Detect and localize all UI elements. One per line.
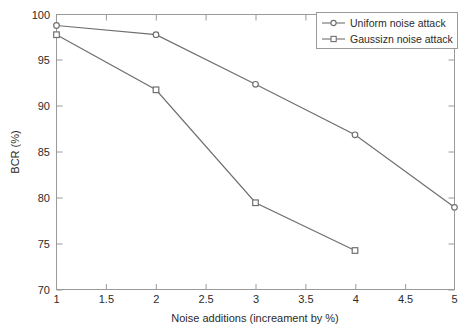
legend: Uniform noise attack Gaussizn noise atta… bbox=[317, 13, 458, 49]
data-point-square bbox=[153, 87, 159, 93]
legend-label-gaussian: Gaussizn noise attack bbox=[350, 33, 453, 45]
legend-label-uniform: Uniform noise attack bbox=[350, 17, 446, 29]
y-tick-label-100: 100 bbox=[32, 9, 50, 21]
data-point-square bbox=[54, 32, 60, 38]
x-tick-label-4: 4 bbox=[353, 293, 359, 305]
y-tick-label-70: 70 bbox=[38, 284, 50, 296]
circle-marker-icon bbox=[331, 20, 336, 25]
data-point-circle bbox=[54, 23, 60, 29]
x-tick-label-1-5: 1.5 bbox=[99, 293, 114, 305]
y-axis-title: BCR (%) bbox=[9, 130, 21, 173]
y-tick-label-85: 85 bbox=[38, 146, 50, 158]
square-marker-icon bbox=[331, 36, 336, 41]
data-point-circle bbox=[153, 32, 159, 38]
y-tick-label-75: 75 bbox=[38, 238, 50, 250]
data-point-square bbox=[352, 248, 358, 254]
x-tick-label-3-5: 3.5 bbox=[298, 293, 313, 305]
x-tick-label-2: 2 bbox=[153, 293, 159, 305]
x-axis-title: Noise additions (increament by %) bbox=[171, 312, 339, 324]
line-chart-svg: 70 75 80 85 90 95 100 bbox=[0, 0, 476, 336]
y-tick-label-95: 95 bbox=[38, 54, 50, 66]
x-tick-label-1: 1 bbox=[53, 293, 59, 305]
data-point-circle bbox=[352, 132, 358, 138]
chart-figure: 70 75 80 85 90 95 100 bbox=[0, 0, 476, 336]
x-tick-label-3: 3 bbox=[253, 293, 259, 305]
x-tick-label-5: 5 bbox=[451, 293, 457, 305]
y-tick-label-90: 90 bbox=[38, 100, 50, 112]
data-point-circle bbox=[253, 81, 259, 87]
plot-area-background bbox=[56, 14, 455, 290]
data-point-square bbox=[253, 200, 259, 206]
x-tick-label-2-5: 2.5 bbox=[198, 293, 213, 305]
y-tick-label-80: 80 bbox=[38, 192, 50, 204]
x-tick-label-4-5: 4.5 bbox=[398, 293, 413, 305]
data-point-circle bbox=[452, 205, 458, 211]
